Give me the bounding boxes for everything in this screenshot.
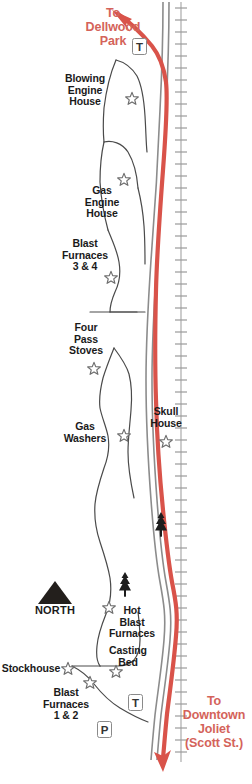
north-label: NORTH bbox=[28, 605, 82, 617]
trail-marker-south[interactable]: T bbox=[128, 694, 143, 711]
trail-map: To Dellwood ParkTo Downtown Joliet (Scot… bbox=[0, 0, 252, 784]
north-arrow-icon bbox=[38, 581, 72, 604]
star-blast-furnaces-3-4[interactable] bbox=[105, 271, 118, 283]
gas-washers: Gas Washers bbox=[58, 421, 112, 444]
casting-bed: Casting Bed bbox=[103, 645, 153, 668]
stockhouse: Stockhouse bbox=[0, 663, 62, 675]
skull-house: Skull House bbox=[146, 406, 186, 429]
blast-furnaces-1-2: Blast Furnaces 1 & 2 bbox=[38, 687, 94, 722]
blowing-engine-house: Blowing Engine House bbox=[56, 73, 114, 108]
tree-lower bbox=[119, 572, 131, 597]
to-downtown-joliet: To Downtown Joliet (Scott St.) bbox=[176, 694, 252, 750]
star-blowing-engine-house[interactable] bbox=[126, 92, 139, 104]
trail-marker-north[interactable]: T bbox=[132, 38, 147, 55]
parking-marker[interactable]: P bbox=[97, 721, 112, 738]
blast-furnaces-3-4: Blast Furnaces 3 & 4 bbox=[58, 238, 112, 273]
star-four-pass-stoves[interactable] bbox=[88, 362, 101, 374]
star-skull-house[interactable] bbox=[160, 435, 173, 447]
gas-engine-house: Gas Engine House bbox=[79, 185, 125, 220]
hot-blast-furnaces: Hot Blast Furnaces bbox=[105, 605, 159, 640]
four-pass-stoves: Four Pass Stoves bbox=[62, 322, 110, 357]
star-stockhouse[interactable] bbox=[62, 662, 75, 674]
star-gas-engine-house[interactable] bbox=[118, 173, 131, 185]
